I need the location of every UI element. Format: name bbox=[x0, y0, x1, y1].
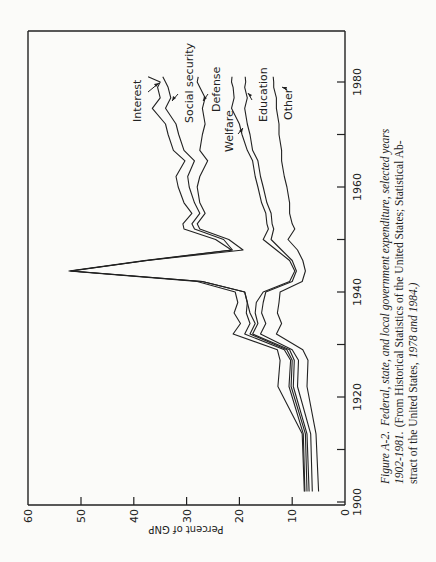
label-education: Education bbox=[257, 67, 270, 122]
label-social-security: Social security bbox=[183, 42, 196, 123]
label-welfare: Welfare bbox=[223, 110, 236, 152]
year-tick-label: 1960 bbox=[351, 173, 364, 201]
caption-line-1: Figure A-2.Federal, state, and local gov… bbox=[379, 128, 392, 485]
series-labels: Interest Social security Defense Welfare… bbox=[131, 42, 295, 152]
percent-tick-label: 30 bbox=[181, 509, 194, 523]
percent-tick-label: 60 bbox=[22, 509, 35, 523]
year-tick-label: 1940 bbox=[351, 278, 364, 306]
y-axis-title: Percent of GNP bbox=[149, 524, 224, 535]
arrow-education-icon bbox=[248, 93, 252, 100]
caption-line-3: stract of the United States,1978 and 198… bbox=[407, 282, 420, 484]
year-tick-label: 1900 bbox=[351, 488, 364, 516]
series-lines bbox=[69, 77, 319, 492]
series-defense bbox=[72, 77, 308, 492]
percent-tick-label: 50 bbox=[75, 509, 88, 523]
series-interest bbox=[69, 77, 304, 492]
series-social-security bbox=[70, 77, 305, 492]
percent-tick-label: 0 bbox=[339, 509, 352, 516]
percent-tick-label: 20 bbox=[233, 509, 246, 523]
year-tick-label: 1920 bbox=[351, 383, 364, 411]
label-other: Other bbox=[282, 88, 295, 120]
year-tick-label: 1980 bbox=[351, 68, 364, 96]
label-interest: Interest bbox=[131, 79, 144, 122]
figure-caption: Figure A-2.Federal, state, and local gov… bbox=[379, 128, 420, 485]
percent-tick-label: 40 bbox=[128, 509, 141, 523]
axis-tick-labels: 190019201940196019800102030405060 bbox=[22, 68, 364, 523]
arrow-social-security-icon bbox=[172, 94, 178, 101]
percent-tick-label: 10 bbox=[286, 509, 299, 523]
series-other bbox=[273, 77, 318, 492]
caption-line-2: 1902-1981.(From Historical Statistics of… bbox=[393, 140, 406, 484]
label-defense: Defense bbox=[210, 66, 223, 112]
chart: 190019201940196019800102030405060 Percen… bbox=[0, 0, 436, 562]
